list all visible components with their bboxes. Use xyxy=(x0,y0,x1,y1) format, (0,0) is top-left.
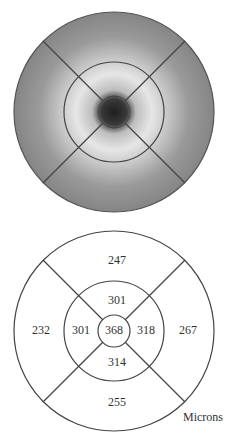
center-value: 368 xyxy=(105,323,123,338)
outer-superior-value: 247 xyxy=(108,253,126,268)
inner-left-value: 301 xyxy=(72,323,90,338)
inner-inferior-value: 314 xyxy=(108,355,126,370)
outer-right-value: 267 xyxy=(179,323,197,338)
inner-right-value: 318 xyxy=(137,323,155,338)
inner-superior-value: 301 xyxy=(108,293,126,308)
unit-label: Microns xyxy=(183,410,223,425)
top-color-map xyxy=(14,12,214,212)
outer-inferior-value: 255 xyxy=(108,395,126,410)
thickness-map-graphic xyxy=(0,0,235,439)
outer-left-value: 232 xyxy=(32,323,50,338)
